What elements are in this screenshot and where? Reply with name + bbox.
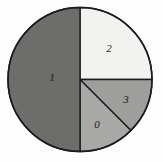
pie-chart-svg: 2 3 0 1 (0, 0, 163, 162)
pie-slice-2[interactable] (80, 8, 152, 80)
pie-slice-label-0: 0 (94, 118, 100, 130)
pie-slice-label-3: 3 (122, 93, 129, 105)
pie-slice-1[interactable] (8, 8, 80, 152)
pie-slice-label-2: 2 (106, 42, 112, 54)
pie-chart-figure: 2 3 0 1 (0, 0, 163, 162)
pie-slice-label-1: 1 (49, 71, 55, 83)
